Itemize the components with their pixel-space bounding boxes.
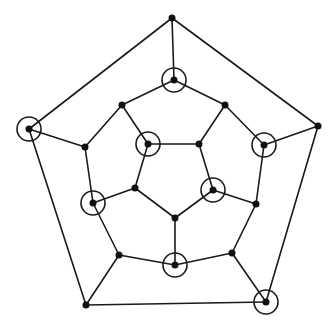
graph-edge xyxy=(85,147,93,203)
graph-edge xyxy=(29,129,86,305)
graph-vertex xyxy=(145,141,152,148)
graph-edge xyxy=(172,18,318,126)
graph-vertex xyxy=(132,185,139,192)
vertex-circle-marks xyxy=(17,68,278,314)
graph-edge xyxy=(29,18,172,129)
graph-edge xyxy=(175,253,232,265)
graph-edge xyxy=(199,144,213,190)
graph-vertex xyxy=(26,126,33,133)
graph-vertex xyxy=(83,302,90,309)
graph-edge xyxy=(86,255,119,305)
dodecahedron-graph xyxy=(0,0,335,326)
graph-vertex xyxy=(253,201,260,208)
graph-edge xyxy=(93,188,135,203)
graph-edge xyxy=(93,203,119,255)
graph-vertex xyxy=(172,215,179,222)
graph-vertex xyxy=(222,102,229,109)
graph-vertex xyxy=(171,77,178,84)
graph-edge xyxy=(135,188,175,218)
graph-edge xyxy=(122,80,174,105)
graph-vertex xyxy=(263,299,270,306)
graph-edge xyxy=(256,145,264,204)
graph-edge xyxy=(225,105,264,145)
graph-vertex xyxy=(116,252,123,259)
graph-vertex xyxy=(82,144,89,151)
graph-vertex xyxy=(172,262,179,269)
graph-edge xyxy=(122,105,148,144)
graph-edge xyxy=(232,204,256,253)
graph-edge xyxy=(199,105,225,144)
graph-edge xyxy=(85,105,122,147)
graph-vertex xyxy=(119,102,126,109)
graph-vertex xyxy=(210,187,217,194)
graph-edge xyxy=(174,80,225,105)
graph-vertex xyxy=(90,200,97,207)
graph-vertex xyxy=(315,123,322,130)
graph-edge xyxy=(232,253,266,302)
graph-edge xyxy=(175,190,213,218)
graph-edge xyxy=(86,302,266,305)
graph-vertex xyxy=(261,142,268,149)
graph-edge xyxy=(213,190,256,204)
graph-edge xyxy=(172,18,174,80)
graph-vertex xyxy=(169,15,176,22)
graph-vertex xyxy=(196,141,203,148)
graph-edge xyxy=(135,144,148,188)
graph-vertex xyxy=(229,250,236,257)
